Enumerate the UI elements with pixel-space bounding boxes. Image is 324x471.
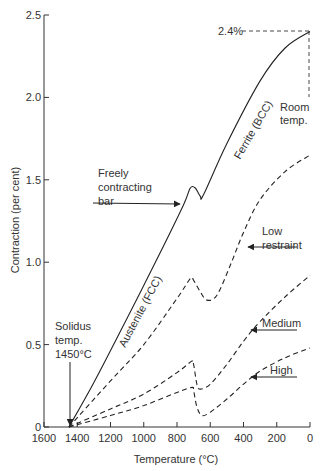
- y-tick-label: 0.5: [26, 339, 41, 351]
- x-axis-title: Temperature (°C): [134, 453, 218, 465]
- low-label-1: Low: [262, 225, 282, 237]
- medium-label: Medium: [262, 317, 301, 329]
- x-tick-label: 800: [168, 432, 186, 444]
- solidus-label-3: 1450°C: [55, 348, 92, 360]
- percent-label: 2.4%: [218, 25, 243, 37]
- x-tick-label: 600: [201, 432, 219, 444]
- y-tick-label: 1.0: [26, 256, 41, 268]
- y-tick-label: 1.5: [26, 174, 41, 186]
- freely-label-3: bar: [98, 195, 114, 207]
- y-axis-title: Contraction (per cent): [9, 167, 21, 273]
- x-tick-label: 1600: [32, 432, 56, 444]
- low-label-2: restraint: [262, 239, 302, 251]
- room-temp-leader: [242, 31, 309, 97]
- solidus-label-2: temp.: [55, 334, 83, 346]
- contraction-chart: 1600140012001000800600400200000.51.01.52…: [0, 0, 324, 471]
- y-tick-label: 2.5: [26, 9, 41, 21]
- x-tick-label: 200: [268, 432, 286, 444]
- y-tick-label: 2.0: [26, 91, 41, 103]
- x-tick-label: 400: [234, 432, 252, 444]
- room-temp-label-2: temp.: [280, 114, 308, 126]
- freely-label-2: contracting: [98, 181, 152, 193]
- series-medium: [69, 275, 310, 427]
- freely-label-1: Freely: [98, 167, 129, 179]
- ferrite-label: Ferrite (BCC): [231, 98, 274, 161]
- solidus-label-1: Solidus: [55, 320, 92, 332]
- x-tick-label: 1000: [132, 432, 156, 444]
- austenite-label: Austenite (FCC): [116, 274, 164, 349]
- y-tick-label: 0: [35, 421, 41, 433]
- x-tick-label: 1200: [98, 432, 122, 444]
- x-tick-label: 1400: [65, 432, 89, 444]
- high-label: High: [270, 364, 293, 376]
- x-tick-label: 0: [307, 432, 313, 444]
- room-temp-label-1: Room: [280, 101, 309, 113]
